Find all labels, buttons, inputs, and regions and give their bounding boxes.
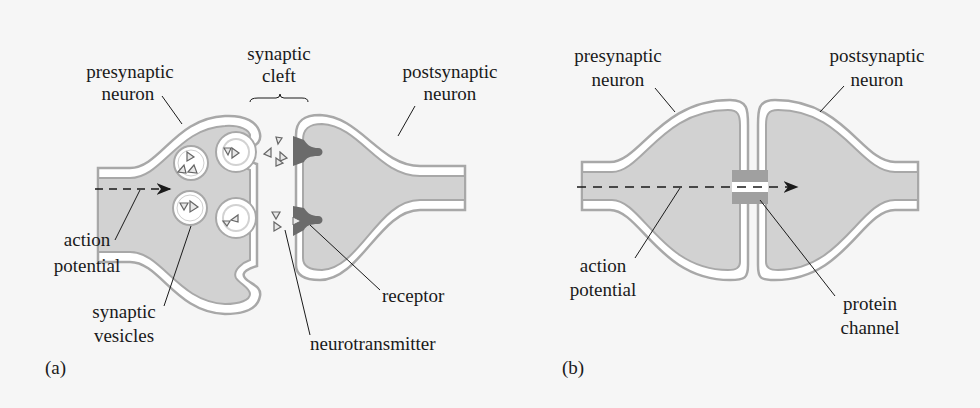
postsynaptic-neuron-b <box>758 100 918 280</box>
presynaptic-neuron-a <box>98 116 300 314</box>
label-presynaptic-b: presynaptic <box>574 45 662 66</box>
synapse-figure: presynaptic neuron synaptic cleft postsy… <box>0 0 980 408</box>
label-vesicles: vesicles <box>94 325 154 346</box>
label-presynaptic-neuron-b: neuron <box>592 69 645 90</box>
panel-a: presynaptic neuron synaptic cleft postsy… <box>45 43 498 379</box>
label-postsynaptic-b: postsynaptic <box>830 45 925 66</box>
label-protein: protein <box>843 293 897 314</box>
label-action-b: action <box>580 255 627 276</box>
panel-b-tag: (b) <box>562 357 584 379</box>
label-receptor: receptor <box>382 285 445 306</box>
cleft-brace <box>250 94 308 102</box>
label-postsynaptic-neuron: neuron <box>424 83 477 104</box>
panel-a-tag: (a) <box>45 357 66 379</box>
synapse-diagram: presynaptic neuron synaptic cleft postsy… <box>0 0 980 408</box>
postsynaptic-neuron-a <box>293 115 465 280</box>
label-channel: channel <box>840 317 899 338</box>
label-potential-b: potential <box>570 279 636 300</box>
label-synaptic-cleft: synaptic <box>247 43 310 64</box>
label-postsynaptic-neuron-b: neuron <box>851 69 904 90</box>
label-cleft: cleft <box>262 65 296 86</box>
label-action: action <box>64 229 111 250</box>
panel-b: presynaptic neuron postsynaptic neuron a… <box>562 45 925 379</box>
label-postsynaptic: postsynaptic <box>403 61 498 82</box>
label-neurotransmitter: neurotransmitter <box>310 333 436 354</box>
label-presynaptic: presynaptic <box>86 61 174 82</box>
presynaptic-neuron-b <box>582 100 748 280</box>
label-presynaptic-neuron: neuron <box>102 83 155 104</box>
label-potential: potential <box>54 255 120 276</box>
label-synaptic-vesicles: synaptic <box>92 301 155 322</box>
